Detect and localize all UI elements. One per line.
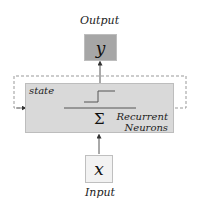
input-symbol: x xyxy=(94,159,104,179)
neurons-title-line2: Neurons xyxy=(117,123,168,133)
sum-symbol: Σ xyxy=(94,110,105,128)
input-caption: Input xyxy=(85,187,115,198)
recurrent-neuron-block: state Σ Recurrent Neurons xyxy=(25,83,174,133)
neurons-title-line1: Recurrent xyxy=(117,112,168,122)
input-node: x xyxy=(85,155,113,183)
